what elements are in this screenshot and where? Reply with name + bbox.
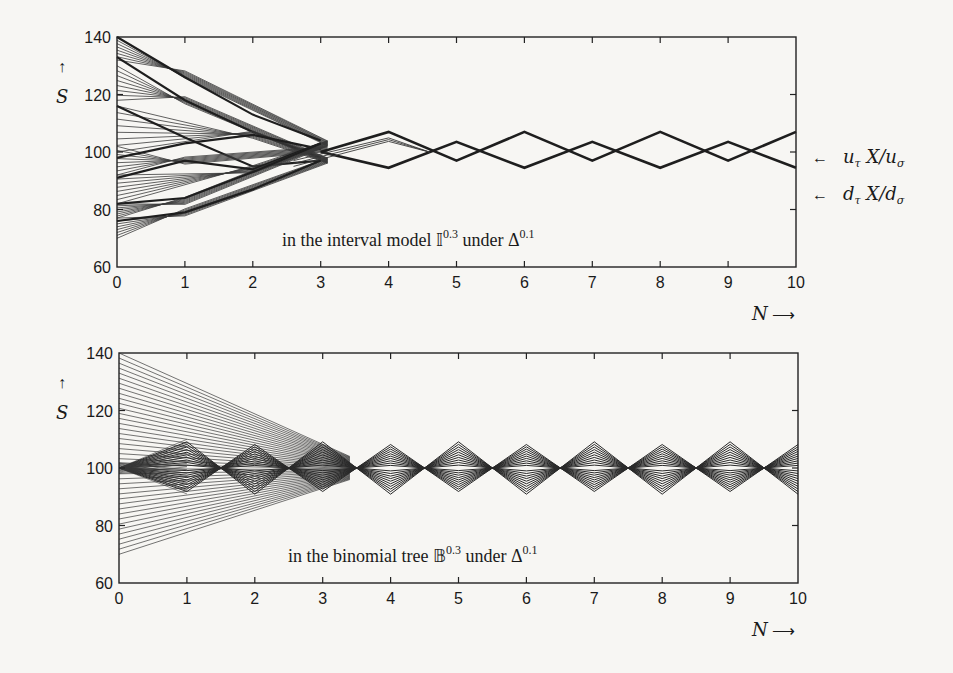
top-y-arrow: ↑: [58, 58, 66, 75]
y-tick-label: 100: [86, 460, 113, 477]
top-chart-panel: 0123456789106080100120140 ↑ S N ⟶ in the…: [56, 29, 905, 324]
x-tick-label: 1: [182, 590, 191, 607]
binomial-fan-line: [119, 478, 350, 539]
top-x-axis-label: N ⟶: [751, 303, 795, 324]
upper-bound-path: [321, 132, 796, 161]
x-tick-label: 3: [316, 274, 325, 291]
svg-text:N: N: [751, 619, 769, 640]
binomial-fan-line: [119, 393, 350, 461]
lower-bound-label: ← dτ X/dσ: [812, 183, 905, 207]
x-tick-label: 6: [522, 590, 531, 607]
x-tick-label: 6: [520, 274, 529, 291]
upper-bound-label: ← uτ X/uσ: [812, 146, 905, 170]
y-tick-label: 140: [84, 29, 111, 46]
x-tick-label: 9: [726, 590, 735, 607]
binomial-fan-line: [119, 479, 350, 549]
x-tick-label: 2: [250, 590, 259, 607]
svg-text:in the interval model 𝕀0.3 un: in the interval model 𝕀0.3 under Δ0.1: [282, 227, 535, 250]
bottom-chart-panel: 0123456789106080100120140 ↑ S N ⟶ in the…: [56, 345, 807, 640]
x-tick-label: 0: [115, 590, 124, 607]
top-annotation: in the interval model 𝕀0.3 under Δ0.1: [282, 227, 535, 250]
binomial-fan-line: [119, 363, 350, 458]
x-tick-label: 0: [113, 274, 122, 291]
top-y-axis-label: S: [56, 86, 68, 107]
binomial-fan-line: [119, 373, 350, 459]
y-tick-label: 80: [93, 202, 111, 219]
x-tick-label: 2: [248, 274, 257, 291]
svg-text:uτ X/uσ: uτ X/uσ: [843, 146, 905, 170]
x-tick-label: 7: [588, 274, 597, 291]
x-tick-label: 1: [180, 274, 189, 291]
bottom-chart-lines: [119, 353, 798, 554]
y-tick-label: 120: [84, 87, 111, 104]
bottom-y-axis-label: S: [56, 402, 68, 423]
bottom-y-arrow: ↑: [58, 374, 66, 391]
svg-text:←: ←: [812, 149, 828, 166]
svg-text:⟶: ⟶: [772, 622, 795, 639]
y-tick-label: 80: [95, 518, 113, 535]
svg-text:⟶: ⟶: [772, 306, 795, 323]
x-tick-label: 8: [656, 274, 665, 291]
binomial-fan-line: [119, 383, 350, 460]
svg-text:N: N: [751, 303, 769, 324]
x-tick-label: 5: [452, 274, 461, 291]
y-tick-label: 120: [86, 403, 113, 420]
bottom-x-axis-label: N ⟶: [751, 619, 795, 640]
y-tick-label: 100: [84, 144, 111, 161]
x-tick-label: 5: [454, 590, 463, 607]
y-tick-label: 140: [86, 345, 113, 362]
y-tick-label: 60: [95, 575, 113, 592]
top-chart-ticks: 0123456789106080100120140: [84, 29, 805, 291]
binomial-fan-line: [119, 368, 350, 458]
x-tick-label: 9: [724, 274, 733, 291]
figure: 0123456789106080100120140 ↑ S N ⟶ in the…: [0, 0, 953, 673]
x-tick-label: 3: [318, 590, 327, 607]
svg-text:←: ←: [812, 186, 828, 203]
svg-text:in the binomial tree 𝔹0.3 und: in the binomial tree 𝔹0.3 under Δ0.1: [288, 543, 538, 566]
x-tick-label: 8: [658, 590, 667, 607]
top-chart-lines: [117, 37, 796, 238]
x-tick-label: 7: [590, 590, 599, 607]
x-tick-label: 4: [384, 274, 393, 291]
svg-text:dτ X/dσ: dτ X/dσ: [843, 183, 905, 207]
y-tick-label: 60: [93, 259, 111, 276]
x-tick-label: 10: [787, 274, 805, 291]
bottom-annotation: in the binomial tree 𝔹0.3 under Δ0.1: [288, 543, 538, 566]
x-tick-label: 4: [386, 590, 395, 607]
binomial-fan-line: [119, 478, 350, 544]
x-tick-label: 10: [789, 590, 807, 607]
